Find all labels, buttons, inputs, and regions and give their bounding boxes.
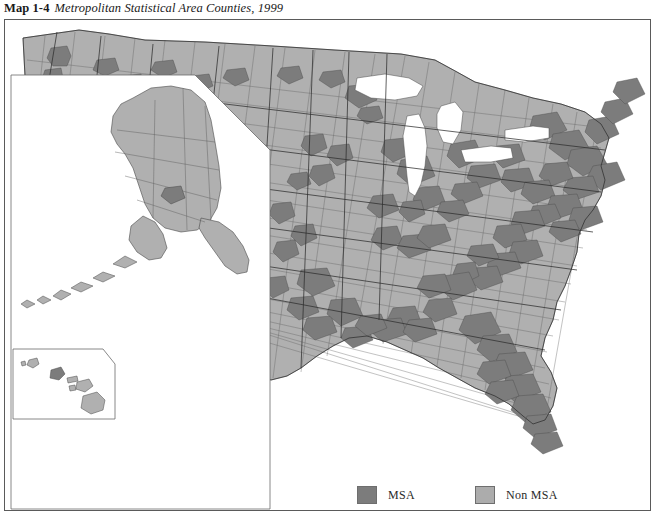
map-page: Map 1-4 Metropolitan Statistical Area Co… <box>0 0 656 511</box>
lanai <box>69 385 76 391</box>
alaska-inset <box>11 75 270 509</box>
map-number: Map 1-4 <box>4 1 50 16</box>
legend-item-non-msa: Non MSA <box>475 486 558 504</box>
niihau <box>21 361 26 366</box>
legend-label-msa: MSA <box>388 488 415 503</box>
map-frame: MSA Non MSA <box>4 19 651 511</box>
map-caption: Metropolitan Statistical Area Counties, … <box>55 1 284 16</box>
legend-label-non-msa: Non MSA <box>506 488 558 503</box>
page-title: Map 1-4 Metropolitan Statistical Area Co… <box>4 0 283 16</box>
non-msa-swatch-icon <box>475 486 495 504</box>
hawaii-inset <box>13 349 115 419</box>
map-legend: MSA Non MSA <box>357 486 558 504</box>
msa-swatch-icon <box>357 486 377 504</box>
legend-item-msa: MSA <box>357 486 415 504</box>
us-county-choropleth <box>5 20 651 511</box>
